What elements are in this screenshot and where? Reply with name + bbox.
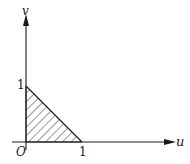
origin-label: O [16,146,26,158]
u-axis-tick-1: 1 [79,146,87,158]
u-axis-label: u [176,135,184,148]
v-axis-tick-1: 1 [17,79,25,91]
v-axis-label: v [22,5,29,17]
u-axis-arrow-icon [164,139,176,145]
region-diagram [0,0,190,164]
